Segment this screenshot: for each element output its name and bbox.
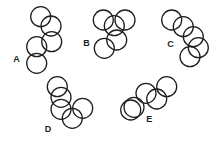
ring-e-3 bbox=[136, 83, 156, 103]
circle-group-a: A bbox=[13, 7, 61, 74]
group-label-b: B bbox=[83, 38, 90, 48]
ring-e-4 bbox=[147, 89, 167, 109]
group-label-c: C bbox=[167, 39, 174, 49]
circle-group-d: D bbox=[45, 77, 93, 134]
circle-group-b: B bbox=[83, 10, 135, 58]
ring-b-2 bbox=[115, 10, 135, 30]
circle-arrangements-diagram: ABCDE bbox=[0, 0, 219, 141]
ring-e-5 bbox=[157, 77, 177, 97]
group-label-d: D bbox=[45, 124, 52, 134]
ring-c-1 bbox=[162, 10, 182, 30]
ring-b-1 bbox=[93, 10, 113, 30]
group-label-a: A bbox=[13, 54, 20, 64]
ring-d-2 bbox=[51, 87, 71, 107]
groups-container: ABCDE bbox=[13, 7, 208, 134]
ring-b-3 bbox=[104, 16, 124, 36]
group-label-e: E bbox=[146, 114, 152, 124]
ring-d-1 bbox=[47, 77, 67, 97]
circle-group-e: E bbox=[121, 77, 177, 124]
ring-c-4 bbox=[188, 38, 208, 58]
circle-group-c: C bbox=[162, 10, 209, 67]
ring-c-5 bbox=[180, 47, 200, 67]
